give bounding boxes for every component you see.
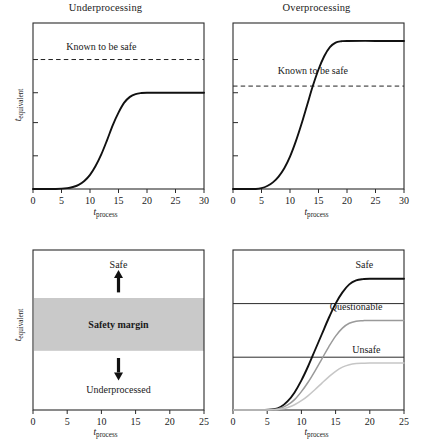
- series-label-questionable: Questionable: [330, 301, 383, 312]
- x-tick-label: 10: [296, 416, 306, 427]
- x-tick-label: 0: [231, 195, 236, 206]
- plot-overprocessing: 051015202530Known to be safe: [211, 0, 422, 224]
- x-tick-label: 30: [399, 195, 409, 206]
- x-tick-label: 5: [65, 416, 70, 427]
- series-label-safe: Safe: [355, 259, 373, 270]
- x-tick-label: 0: [31, 416, 36, 427]
- curve-equivalent time: [233, 41, 404, 189]
- curve-unsafe: [233, 363, 404, 410]
- plot-frame: [233, 23, 404, 189]
- series-label-unsafe: Unsafe: [352, 344, 381, 355]
- x-axis-title-p0: tprocess: [0, 207, 211, 217]
- x-tick-label: 25: [399, 416, 409, 427]
- safety-margin-label: Safety margin: [88, 319, 149, 330]
- y-axis-var-p0: t: [13, 119, 23, 122]
- plot-safety-margin: 0510152025SafeSafety marginUnderprocesse…: [0, 224, 211, 448]
- x-tick-label: 25: [199, 416, 209, 427]
- x-tick-label: 5: [59, 195, 64, 206]
- x-axis-sub-p0: process: [96, 211, 118, 219]
- x-axis-sub-p2: process: [96, 431, 118, 439]
- known-to-be-safe-label: Known to be safe: [278, 65, 349, 76]
- panel-underprocessing: Underprocessing 051015202530Known to be …: [0, 0, 211, 224]
- x-axis-title-p1: tprocess: [211, 207, 422, 217]
- y-axis-var-p2: t: [13, 339, 23, 342]
- safe-label: Safe: [110, 259, 128, 270]
- x-tick-label: 0: [231, 416, 236, 427]
- y-axis-sub-p0: equivalent: [17, 89, 25, 119]
- x-tick-label: 25: [371, 195, 381, 206]
- up-arrow-head: [114, 270, 123, 278]
- x-tick-label: 15: [114, 195, 124, 206]
- x-tick-label: 0: [31, 195, 36, 206]
- x-tick-label: 20: [365, 416, 375, 427]
- x-axis-sub-p3: process: [307, 431, 329, 439]
- panel-title-overprocessing: Overprocessing: [211, 2, 422, 13]
- x-axis-title-p3: tprocess: [211, 427, 422, 437]
- y-axis-title-p2: tequivalent: [13, 295, 23, 355]
- x-tick-label: 30: [199, 195, 209, 206]
- x-axis-sub-p1: process: [307, 211, 329, 219]
- curve-equivalent time: [33, 93, 204, 189]
- x-tick-label: 15: [331, 416, 341, 427]
- x-tick-label: 25: [171, 195, 181, 206]
- panel-overprocessing: Overprocessing 051015202530Known to be s…: [211, 0, 422, 224]
- x-tick-label: 10: [85, 195, 95, 206]
- plot-underprocessing: 051015202530Known to be safe: [0, 0, 211, 224]
- x-axis-title-p2: tprocess: [0, 427, 211, 437]
- x-tick-label: 15: [131, 416, 141, 427]
- x-tick-label: 20: [342, 195, 352, 206]
- x-tick-label: 20: [165, 416, 175, 427]
- y-axis-sub-p2: equivalent: [17, 309, 25, 339]
- panel-title-underprocessing: Underprocessing: [0, 2, 211, 13]
- x-tick-label: 10: [96, 416, 106, 427]
- x-tick-label: 5: [265, 416, 270, 427]
- down-arrow-head: [114, 372, 123, 380]
- x-tick-label: 5: [259, 195, 264, 206]
- known-to-be-safe-label: Known to be safe: [66, 41, 137, 52]
- x-tick-label: 15: [314, 195, 324, 206]
- panel-outcome-curves: 0510152025SafeQuestionableUnsafe tproces…: [211, 224, 422, 448]
- underprocessed-label: Underprocessed: [86, 384, 150, 395]
- x-tick-label: 10: [285, 195, 295, 206]
- panel-safety-margin: 0510152025SafeSafety marginUnderprocesse…: [0, 224, 211, 448]
- curve-questionable: [233, 320, 404, 410]
- plot-outcome-curves: 0510152025SafeQuestionableUnsafe: [211, 224, 422, 448]
- x-tick-label: 20: [142, 195, 152, 206]
- y-axis-title-p0: tequivalent: [13, 75, 23, 135]
- figure-container: Underprocessing 051015202530Known to be …: [0, 0, 422, 448]
